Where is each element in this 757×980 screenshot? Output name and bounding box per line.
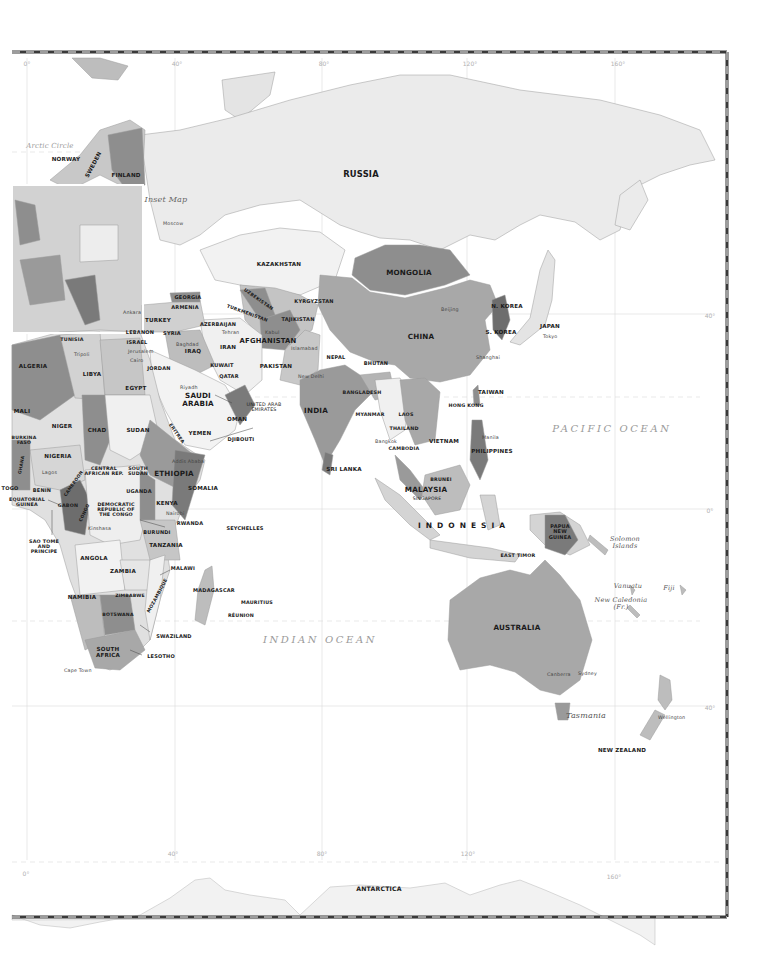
country-label-china: CHINA — [408, 333, 435, 341]
country-label-burkina-faso: BURKINA FASO — [9, 436, 39, 446]
city-label-nairobi: Nairobi — [166, 511, 184, 516]
country-label-namibia: NAMIBIA — [68, 595, 97, 601]
city-label-sydney: Sydney — [578, 671, 597, 676]
city-label-canberra: Canberra — [547, 672, 571, 677]
country-label-togo: TOGO — [2, 486, 19, 491]
island-label-new-caledonia: New Caledonia (Fr.) — [594, 597, 648, 611]
country-label-zambia: ZAMBIA — [110, 569, 136, 575]
country-label-kuwait: KUWAIT — [210, 363, 233, 368]
country-label-botswana: BOTSWANA — [102, 613, 133, 618]
country-label-brunei: BRUNEI — [430, 477, 452, 482]
longitude-tick: 0° — [23, 870, 30, 877]
city-label-kabul: Kabul — [265, 330, 279, 335]
city-label-baghdad: Baghdad — [176, 342, 199, 347]
longitude-tick: 40° — [172, 60, 183, 67]
city-label-cape-town: Cape Town — [64, 668, 92, 673]
country-label-mauritius: MAURITIUS — [241, 600, 273, 605]
country-label-niger: NIGER — [52, 424, 72, 430]
country-label-south-africa: SOUTH AFRICA — [92, 647, 124, 659]
country-label-malaysia: MALAYSIA — [405, 486, 447, 494]
country-label-thailand: THAILAND — [389, 426, 418, 431]
country-label-afghanistan: AFGHANISTAN — [240, 338, 297, 345]
country-label-bhutan: BHUTAN — [364, 361, 388, 366]
island-label-tasmania: Tasmania — [566, 712, 606, 720]
country-label-uae: UNITED ARAB EMIRATES — [244, 402, 284, 412]
country-label-djibouti: DJIBOUTI — [228, 437, 255, 442]
country-label-saudi-arabia: SAUDI ARABIA — [168, 392, 228, 407]
country-label-iran: IRAN — [220, 345, 236, 351]
country-label-algeria: ALGERIA — [19, 364, 47, 370]
country-label-egypt: EGYPT — [125, 386, 146, 392]
country-label-kazakhstan: KAZAKHSTAN — [257, 262, 302, 268]
country-label-philippines: PHILIPPINES — [471, 449, 513, 455]
country-label-tanzania: TANZANIA — [149, 543, 182, 549]
country-label-lebanon: LEBANON — [126, 330, 154, 335]
country-label-papua-new-guinea: PAPUA NEW GUINEA — [543, 524, 577, 540]
country-label-sao-tome: SAO TOME AND PRINCIPE — [24, 539, 64, 554]
longitude-tick: 120° — [461, 850, 475, 857]
latitude-tick: 40° — [705, 312, 716, 319]
country-label-lesotho: LESOTHO — [147, 654, 175, 659]
city-label-wellington: Wellington — [658, 715, 685, 720]
country-label-armenia: ARMENIA — [171, 305, 198, 310]
country-label-madagascar: MADAGASCAR — [193, 588, 235, 593]
country-label-drc: DEMOCRATIC REPUBLIC OF THE CONGO — [93, 502, 139, 517]
country-label-syria: SYRIA — [163, 331, 181, 336]
country-label-finland: FINLAND — [111, 173, 140, 179]
country-label-burundi: BURUNDI — [143, 530, 170, 535]
country-label-south-sudan: SOUTH SUDAN — [126, 466, 150, 476]
country-label-pakistan: PAKISTAN — [260, 364, 292, 370]
country-label-somalia: SOMALIA — [188, 486, 218, 492]
country-label-azerbaijan: AZERBAIJAN — [200, 322, 236, 327]
country-label-kenya: KENYA — [156, 501, 178, 507]
country-label-iraq: IRAQ — [185, 349, 201, 355]
country-label-indonesia: INDONESIA — [418, 522, 510, 530]
country-label-nepal: NEPAL — [327, 355, 346, 360]
longitude-tick: 160° — [611, 60, 625, 67]
country-label-ethiopia: ETHIOPIA — [154, 470, 194, 478]
country-label-north-korea: N. KOREA — [491, 304, 523, 310]
country-label-uganda: UGANDA — [126, 489, 151, 494]
latitude-tick: 40° — [705, 704, 716, 711]
island-label-solomon: Solomon Islands — [605, 536, 645, 550]
country-label-georgia: GEORGIA — [175, 295, 202, 300]
city-label-tripoli: Tripoli — [74, 352, 90, 357]
longitude-tick: 160° — [607, 873, 621, 880]
city-label-ankara: Ankara — [123, 310, 141, 315]
city-label-tokyo: Tokyo — [543, 334, 557, 339]
country-label-central-african-rep: CENTRAL AFRICAN REP. — [82, 466, 127, 476]
country-label-laos: LAOS — [398, 412, 413, 417]
country-label-hong-kong: HONG KONG — [448, 403, 483, 408]
country-label-east-timor: EAST TIMOR — [501, 553, 536, 558]
country-label-zimbabwe: ZIMBABWE — [115, 594, 145, 599]
country-label-yemen: YEMEN — [189, 431, 212, 437]
country-label-bangladesh: BANGLADESH — [343, 390, 382, 395]
country-label-angola: ANGOLA — [80, 556, 107, 562]
country-label-cambodia: CAMBODIA — [389, 446, 420, 451]
ocean-label-pacific: PACIFIC OCEAN — [552, 424, 671, 435]
longitude-tick: 40° — [168, 850, 179, 857]
country-label-singapore: SINGAPORE — [413, 497, 442, 502]
inset-map-label: Inset Map — [145, 196, 188, 204]
city-label-shanghai: Shanghai — [476, 355, 500, 360]
country-label-sri-lanka: SRI LANKA — [326, 467, 361, 473]
city-label-new-delhi: New Delhi — [298, 374, 324, 379]
country-label-chad: CHAD — [88, 428, 107, 434]
country-label-reunion: RÉUNION — [228, 613, 254, 618]
city-label-tehran: Tehran — [222, 330, 239, 335]
city-label-riyadh: Riyadh — [180, 385, 198, 390]
country-label-seychelles: SEYCHELLES — [226, 526, 263, 531]
city-label-moscow: Moscow — [163, 221, 183, 226]
country-label-india: INDIA — [304, 407, 328, 415]
country-label-nigeria: NIGERIA — [44, 454, 71, 460]
country-label-turkey: TURKEY — [145, 318, 171, 324]
city-label-jerusalem: Jerusalem — [128, 349, 154, 354]
country-label-qatar: QATAR — [219, 374, 238, 379]
island-label-fiji: Fiji — [663, 585, 674, 592]
longitude-tick: 80° — [319, 60, 330, 67]
country-label-australia: AUSTRALIA — [494, 624, 541, 632]
country-label-jordan: JORDAN — [147, 366, 170, 371]
country-label-mongolia: MONGOLIA — [386, 269, 432, 277]
country-label-benin: BENIN — [33, 488, 51, 493]
country-label-antarctica: ANTARCTICA — [356, 886, 402, 893]
